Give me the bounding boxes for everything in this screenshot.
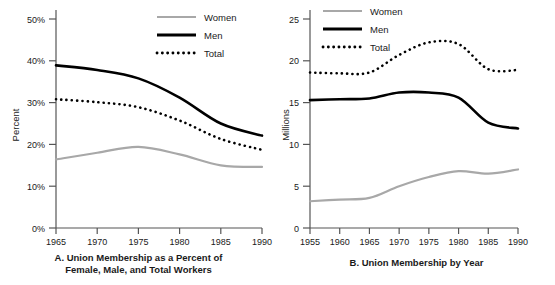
y-axis-title-b: Millions <box>280 109 291 141</box>
y-tick-label: 40% <box>27 56 45 66</box>
x-tick-label: 1975 <box>419 237 439 247</box>
y-tick-label: 0% <box>32 224 45 234</box>
series-line-total <box>310 41 518 74</box>
chart-b-plot: 0 5 10 15 20 25 Millions 1955 <box>278 0 555 250</box>
y-tick-label: 50% <box>27 15 45 25</box>
chart-b-caption: B. Union Membership by Year <box>278 257 555 269</box>
series-line-total <box>56 99 262 150</box>
chart-panel-b: 0 5 10 15 20 25 Millions 1955 <box>278 0 555 285</box>
y-tick-label: 0 <box>294 224 299 234</box>
x-tick-labels-b: 1955 1960 1965 1970 1975 1980 1985 1990 <box>300 237 528 247</box>
x-tick-label: 1965 <box>46 237 66 247</box>
x-tick-label: 1990 <box>252 237 272 247</box>
series-line-women <box>56 147 262 167</box>
x-tick-labels-a: 1965 1970 1975 1980 1985 1990 <box>46 237 272 247</box>
chart-legend-b: Women Men Total <box>323 6 403 53</box>
y-tick-labels-a: 0% 10% 20% 30% 40% 50% <box>27 15 45 234</box>
legend-label-total: Total <box>370 42 390 53</box>
chart-panel-a: 0% 10% 20% 30% 40% 50% Percent 1965 1970 <box>0 0 277 285</box>
y-axis-title-a: Percent <box>10 108 21 141</box>
y-ticks-b <box>303 19 310 228</box>
y-tick-label: 20% <box>27 140 45 150</box>
y-tick-label: 15 <box>289 98 299 108</box>
x-tick-label: 1980 <box>170 237 190 247</box>
series-line-women <box>310 169 518 201</box>
legend-label-men: Men <box>370 24 388 35</box>
x-ticks-b <box>310 228 518 234</box>
x-tick-label: 1985 <box>478 237 498 247</box>
caption-line-2: Female, Male, and Total Workers <box>0 264 277 276</box>
legend-label-men: Men <box>204 30 222 41</box>
legend-label-total: Total <box>204 48 224 59</box>
legend-label-women: Women <box>370 6 403 17</box>
y-tick-label: 25 <box>289 15 299 25</box>
caption-line-1: A. Union Membership as a Percent of <box>0 252 277 264</box>
union-membership-figure: 0% 10% 20% 30% 40% 50% Percent 1965 1970 <box>0 0 555 285</box>
x-tick-label: 1970 <box>389 237 409 247</box>
legend-label-women: Women <box>204 12 237 23</box>
y-tick-label: 30% <box>27 98 45 108</box>
x-tick-label: 1965 <box>359 237 379 247</box>
x-tick-label: 1980 <box>449 237 469 247</box>
series-line-men <box>310 92 518 129</box>
x-tick-label: 1970 <box>87 237 107 247</box>
chart-legend-a: Women Men Total <box>157 12 237 59</box>
x-tick-label: 1960 <box>330 237 350 247</box>
y-tick-label: 20 <box>289 56 299 66</box>
caption-line-1: B. Union Membership by Year <box>278 257 555 269</box>
y-tick-label: 5 <box>294 182 299 192</box>
x-tick-label: 1975 <box>128 237 148 247</box>
x-tick-label: 1985 <box>211 237 231 247</box>
y-ticks-a <box>49 19 56 228</box>
chart-a-caption: A. Union Membership as a Percent of Fema… <box>0 252 277 275</box>
x-tick-label: 1955 <box>300 237 320 247</box>
x-ticks-a <box>56 228 262 234</box>
y-tick-label: 10% <box>27 182 45 192</box>
chart-a-plot: 0% 10% 20% 30% 40% 50% Percent 1965 1970 <box>0 0 277 250</box>
x-tick-label: 1990 <box>508 237 528 247</box>
